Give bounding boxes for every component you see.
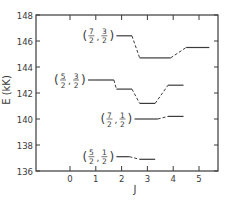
fraction-numerator: 1 [120, 111, 125, 120]
level-connector [171, 48, 186, 58]
comma: , [68, 76, 71, 86]
energy-level-chart: 136138140142144146148 012345 (72,32)(52,… [0, 0, 227, 210]
y-tick-label: 148 [17, 11, 33, 21]
fraction-denominator: 2 [120, 120, 125, 129]
y-tick-label: 136 [17, 167, 33, 177]
series-label: (52,32) [54, 72, 86, 90]
open-paren: ( [82, 150, 87, 164]
x-axis-ticks: 012345 [67, 15, 201, 184]
plot-frame [36, 15, 218, 171]
series-label: (72,32) [82, 27, 114, 45]
x-tick-label: 2 [119, 174, 124, 184]
x-tick-label: 4 [170, 174, 175, 184]
fraction-numerator: 5 [89, 148, 94, 157]
series-label: (72,12) [101, 111, 133, 129]
series-0 [116, 36, 209, 58]
fraction-denominator: 2 [89, 157, 94, 166]
fraction-denominator: 2 [102, 157, 107, 166]
open-paren: ( [101, 112, 106, 126]
level-connector [129, 157, 139, 160]
y-tick-label: 140 [17, 115, 33, 125]
level-connector [132, 36, 140, 58]
open-paren: ( [82, 29, 87, 43]
fraction-denominator: 2 [102, 36, 107, 45]
close-paren: ) [128, 112, 133, 126]
fraction-numerator: 3 [74, 72, 79, 81]
level-connector [114, 80, 117, 89]
series-labels: (72,32)(52,32)(72,12)(52,12) [54, 27, 132, 166]
y-tick-label: 142 [17, 89, 33, 99]
level-connector [155, 85, 168, 103]
fraction-denominator: 2 [89, 36, 94, 45]
series-2 [135, 116, 184, 119]
y-tick-label: 138 [17, 141, 33, 151]
y-axis-label: E (kK) [1, 75, 12, 105]
comma: , [96, 153, 99, 163]
comma: , [115, 115, 118, 125]
fraction-denominator: 2 [74, 81, 79, 90]
level-connector [132, 89, 140, 103]
fraction-numerator: 5 [61, 72, 66, 81]
fraction-denominator: 2 [107, 120, 112, 129]
series-label: (52,12) [82, 148, 114, 166]
fraction-numerator: 7 [89, 27, 94, 36]
series-3 [116, 157, 155, 160]
series-layer [88, 36, 209, 160]
series-1 [88, 80, 183, 103]
close-paren: ) [109, 29, 114, 43]
x-axis-label: J [133, 184, 137, 195]
open-paren: ( [54, 73, 59, 87]
x-tick-label: 5 [196, 174, 201, 184]
comma: , [96, 32, 99, 42]
x-tick-label: 1 [93, 174, 98, 184]
close-paren: ) [81, 73, 86, 87]
fraction-numerator: 3 [102, 27, 107, 36]
fraction-denominator: 2 [61, 81, 66, 90]
x-tick-label: 0 [67, 174, 72, 184]
close-paren: ) [109, 150, 114, 164]
level-connector [158, 116, 168, 119]
y-tick-label: 144 [17, 63, 33, 73]
fraction-numerator: 7 [107, 111, 112, 120]
plot-border [36, 15, 218, 171]
y-tick-label: 146 [17, 37, 33, 47]
x-tick-label: 3 [145, 174, 150, 184]
fraction-numerator: 1 [102, 148, 107, 157]
